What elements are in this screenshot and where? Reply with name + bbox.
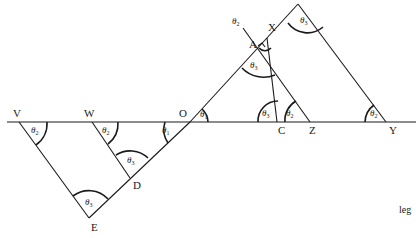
label-A: A [249, 38, 257, 50]
angle-label-theta2-W: θ2 [102, 125, 109, 136]
angle-label-theta1-O-lower: θ1 [162, 125, 169, 136]
angle-arc-D [116, 151, 148, 158]
angle-label-theta3-A: θ3 [250, 60, 257, 71]
label-V: V [13, 107, 21, 119]
angle-label-theta2-Z: θ2 [286, 108, 293, 119]
line-VE [19, 122, 89, 218]
label-W: W [84, 107, 95, 119]
line-O-apex [190, 4, 298, 122]
label-O: O [179, 107, 187, 119]
angle-arc-X [259, 48, 271, 51]
angle-label-theta2-V: θ2 [31, 125, 38, 136]
line-apex-Y [298, 4, 386, 122]
line-WD [92, 122, 130, 178]
footer-text-fragment: leg [399, 204, 411, 215]
angle-label-theta3-D: θ3 [127, 155, 134, 166]
label-D: D [133, 179, 141, 191]
angle-arc-W [108, 122, 118, 144]
angle-label-theta3-C: θ3 [262, 108, 269, 119]
label-Y: Y [389, 124, 397, 136]
label-C: C [278, 124, 285, 136]
label-X: X [268, 21, 276, 33]
geometry-diagram: V W O D E A X C Z Y θ2 θ2 θ1 θ3 θ3 θ1 θ3… [0, 0, 416, 238]
label-E: E [91, 221, 98, 233]
angle-arc-A [242, 68, 275, 77]
label-Z: Z [309, 124, 316, 136]
angle-arc-E [73, 191, 108, 199]
angle-label-theta2-normal: θ2 [232, 16, 239, 27]
line-EO [89, 122, 190, 218]
angle-label-theta1-O-upper: θ1 [200, 109, 207, 120]
angle-label-theta3-apex: θ3 [300, 15, 307, 26]
angle-label-theta3-E: θ3 [85, 197, 92, 208]
